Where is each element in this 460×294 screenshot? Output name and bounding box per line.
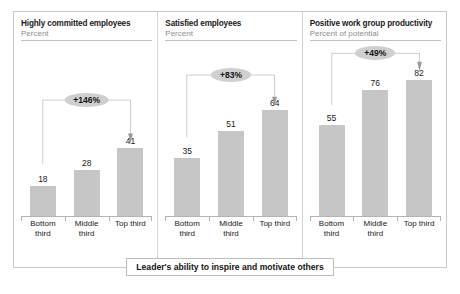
panel-group: Highly committed employees Percent 18 28…	[14, 12, 446, 267]
label-line-2: third	[311, 229, 353, 239]
bar[interactable]	[74, 170, 100, 216]
bar-group: 51	[209, 50, 253, 216]
category-label-bottom-third: Bottom third	[310, 219, 354, 247]
bar-value-label: 55	[327, 113, 336, 124]
panel-satisfied-employees: Satisfied employees Percent 35 51 64	[157, 12, 301, 267]
category-label-middle-third: Middle third	[209, 219, 253, 247]
bar-group: 55	[310, 50, 354, 216]
category-label-bottom-third: Bottom third	[165, 219, 209, 247]
bar-value-label: 18	[38, 174, 47, 185]
panel-title: Highly committed employees	[21, 19, 152, 29]
bar-group: 18	[21, 50, 65, 216]
panel-subtitle: Percent of potential	[310, 29, 441, 39]
exhibit-frame: Highly committed employees Percent 18 28…	[13, 11, 447, 268]
label-line-2: third	[166, 229, 208, 239]
panel-highly-committed-employees: Highly committed employees Percent 18 28…	[14, 12, 157, 267]
label-line-2: third	[210, 229, 252, 239]
category-label-bottom-third: Bottom third	[21, 219, 65, 247]
plot-area: 18 28 41	[21, 50, 152, 217]
bar[interactable]	[218, 131, 244, 216]
plot-area: 35 51 64	[165, 50, 296, 217]
bar-group: 76	[353, 50, 397, 216]
caption-container: Leader's ability to inspire and motivate…	[14, 258, 446, 276]
bar-value-label: 35	[182, 146, 191, 157]
header-rule	[310, 40, 441, 41]
bar[interactable]	[262, 110, 288, 216]
panel-positive-work-group-productivity: Positive work group productivity Percent…	[302, 12, 446, 267]
label-line-1: Top third	[398, 219, 440, 229]
label-line-1: Top third	[110, 219, 152, 229]
label-line-1: Middle	[354, 219, 396, 229]
category-label-top-third: Top third	[109, 219, 153, 247]
panel-header: Positive work group productivity Percent…	[310, 19, 441, 41]
panel-title: Positive work group productivity	[310, 19, 441, 29]
axis-caption: Leader's ability to inspire and motivate…	[126, 258, 333, 276]
label-line-1: Middle	[66, 219, 108, 229]
category-labels: Bottom third Middle third Top third	[21, 219, 152, 247]
label-line-1: Bottom	[311, 219, 353, 229]
category-label-middle-third: Middle third	[353, 219, 397, 247]
plot-area: 55 76 82	[310, 50, 441, 217]
bar-value-label: 64	[270, 98, 279, 109]
bar[interactable]	[117, 148, 143, 216]
bar-group: 35	[165, 50, 209, 216]
bar[interactable]	[319, 125, 345, 216]
panel-subtitle: Percent	[165, 29, 296, 39]
label-line-1: Top third	[254, 219, 296, 229]
bar-value-label: 28	[82, 158, 91, 169]
label-line-2: third	[22, 229, 64, 239]
bar-series: 35 51 64	[165, 50, 296, 216]
category-label-top-third: Top third	[397, 219, 441, 247]
bar-group: 41	[109, 50, 153, 216]
bar-group: 64	[253, 50, 297, 216]
panel-title: Satisfied employees	[165, 19, 296, 29]
panel-subtitle: Percent	[21, 29, 152, 39]
header-rule	[21, 40, 152, 41]
header-rule	[165, 40, 296, 41]
bar-value-label: 82	[414, 68, 423, 79]
bar[interactable]	[174, 158, 200, 216]
bar-series: 55 76 82	[310, 50, 441, 216]
label-line-1: Bottom	[166, 219, 208, 229]
category-labels: Bottom third Middle third Top third	[165, 219, 296, 247]
bar[interactable]	[406, 80, 432, 216]
bar-value-label: 51	[226, 119, 235, 130]
label-line-1: Middle	[210, 219, 252, 229]
label-line-2: third	[66, 229, 108, 239]
category-label-top-third: Top third	[253, 219, 297, 247]
bar[interactable]	[362, 90, 388, 216]
bar-group: 28	[65, 50, 109, 216]
bar-value-label: 76	[371, 78, 380, 89]
bar[interactable]	[30, 186, 56, 216]
bar-value-label: 41	[126, 136, 135, 147]
panel-header: Satisfied employees Percent	[165, 19, 296, 41]
category-label-middle-third: Middle third	[65, 219, 109, 247]
category-labels: Bottom third Middle third Top third	[310, 219, 441, 247]
panel-header: Highly committed employees Percent	[21, 19, 152, 41]
label-line-1: Bottom	[22, 219, 64, 229]
bar-series: 18 28 41	[21, 50, 152, 216]
bar-group: 82	[397, 50, 441, 216]
label-line-2: third	[354, 229, 396, 239]
